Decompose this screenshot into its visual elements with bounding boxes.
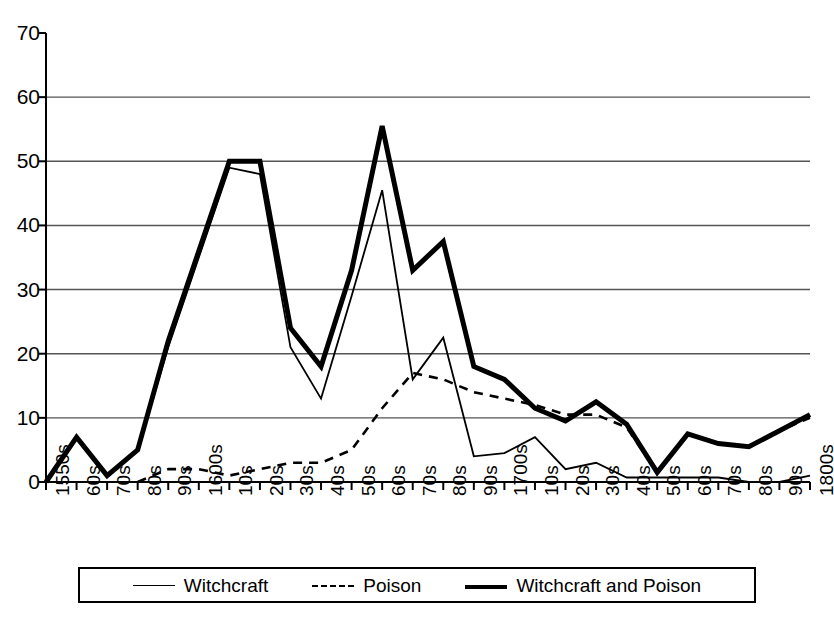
x-axis-label-3: 80s (145, 465, 164, 496)
legend-label: Witchcraft (184, 576, 268, 595)
x-axis-label-18: 30s (603, 465, 622, 496)
x-axis-label-23: 80s (756, 465, 775, 496)
legend-item-2: Witchcraft and Poison (465, 576, 701, 595)
legend-label: Witchcraft and Poison (516, 576, 701, 595)
x-axis-label-6: 10s (236, 465, 255, 496)
x-axis-label-21: 60s (695, 465, 714, 496)
x-axis-label-12: 70s (420, 465, 439, 496)
legend-item-1: Poison (312, 576, 421, 595)
legend-label: Poison (363, 576, 421, 595)
x-axis-label-13: 80s (450, 465, 469, 496)
x-axis-label-8: 30s (297, 465, 316, 496)
x-axis-label-16: 10s (542, 465, 561, 496)
series-line-2 (46, 126, 810, 482)
chart-container: 706050403020100 1550s60s70s80s90s1600s10… (0, 0, 834, 619)
x-axis-label-17: 20s (573, 465, 592, 496)
legend-swatch-line (133, 585, 175, 586)
x-axis-label-24: 90s (786, 465, 805, 496)
legend-swatch-line (312, 585, 354, 587)
x-axis-label-1: 60s (84, 465, 103, 496)
x-axis-label-20: 50s (664, 465, 683, 496)
x-axis-label-2: 70s (114, 465, 133, 496)
legend-item-0: Witchcraft (133, 576, 268, 595)
x-axis-label-9: 40s (328, 465, 347, 496)
x-axis-label-22: 70s (725, 465, 744, 496)
legend-swatch-icon (312, 580, 354, 590)
x-axis-label-5: 1600s (206, 444, 225, 496)
legend-swatch-icon (133, 580, 175, 590)
chart-legend: WitchcraftPoisonWitchcraft and Poison (78, 567, 756, 603)
x-axis-label-4: 90s (175, 465, 194, 496)
x-axis-label-14: 90s (481, 465, 500, 496)
legend-swatch-line (465, 585, 507, 589)
x-axis-label-25: 1800s (817, 444, 834, 496)
x-axis-label-15: 1700s (511, 444, 530, 496)
x-axis-label-19: 40s (634, 465, 653, 496)
x-axis-label-7: 20s (267, 465, 286, 496)
plot-area (0, 0, 834, 619)
x-axis-label-11: 60s (389, 465, 408, 496)
legend-swatch-icon (465, 580, 507, 590)
x-axis-label-10: 50s (359, 465, 378, 496)
x-axis-label-0: 1550s (53, 444, 72, 496)
